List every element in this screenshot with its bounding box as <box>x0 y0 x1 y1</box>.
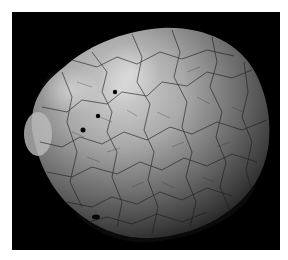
micrograph-frame <box>12 12 280 250</box>
pore <box>113 90 117 94</box>
specimen-image <box>12 12 280 250</box>
pore <box>96 114 100 118</box>
pore <box>92 215 100 220</box>
pore <box>81 128 86 133</box>
